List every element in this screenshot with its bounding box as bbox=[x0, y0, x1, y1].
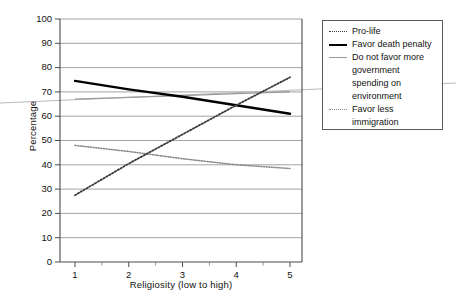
legend-label-environment-line2: government bbox=[352, 65, 400, 76]
legend-entry-death-penalty[interactable]: Favor death penalty bbox=[328, 39, 440, 50]
y-tick-label-30: 30 bbox=[22, 184, 52, 194]
y-tick-label-100: 100 bbox=[22, 14, 52, 24]
legend-entry-pro-life[interactable]: Pro-life bbox=[328, 26, 440, 37]
x-axis-ticks bbox=[75, 262, 290, 267]
chart-legend: Pro-life Favor death penalty Do not favo… bbox=[322, 20, 443, 130]
legend-entry-immigration[interactable]: Favor less bbox=[328, 104, 440, 115]
legend-key-thick-line-icon bbox=[328, 39, 348, 50]
legend-entry-environment[interactable]: Do not favor more bbox=[328, 52, 440, 63]
legend-label-immigration-line1: Favor less bbox=[352, 104, 440, 115]
gridlines bbox=[60, 19, 302, 238]
legend-label-environment-line1: Do not favor more bbox=[352, 52, 440, 63]
legend-label-pro-life: Pro-life bbox=[352, 26, 440, 37]
y-axis-ticks bbox=[55, 19, 60, 262]
y-tick-label-0: 0 bbox=[22, 257, 52, 267]
legend-label-death-penalty: Favor death penalty bbox=[352, 39, 440, 50]
series-death-penalty bbox=[75, 81, 290, 114]
y-axis-title: Percentage bbox=[25, 71, 41, 181]
y-tick-label-90: 90 bbox=[22, 38, 52, 48]
legend-key-dotted-icon bbox=[328, 26, 348, 37]
y-tick-label-20: 20 bbox=[22, 208, 52, 218]
legend-label-environment-line4: environment bbox=[352, 91, 402, 102]
y-tick-label-10: 10 bbox=[22, 233, 52, 243]
legend-key-gray-line-icon bbox=[328, 52, 348, 63]
x-axis-title: Religiosity (low to high) bbox=[60, 279, 302, 290]
religiosity-attitudes-line-chart: 100 90 80 70 60 50 40 30 20 10 0 1 2 3 4… bbox=[0, 0, 456, 303]
legend-label-environment-line3: spending on bbox=[352, 78, 401, 89]
legend-label-immigration-line2: immigration bbox=[352, 117, 399, 128]
legend-key-fine-dotted-icon bbox=[328, 104, 348, 115]
